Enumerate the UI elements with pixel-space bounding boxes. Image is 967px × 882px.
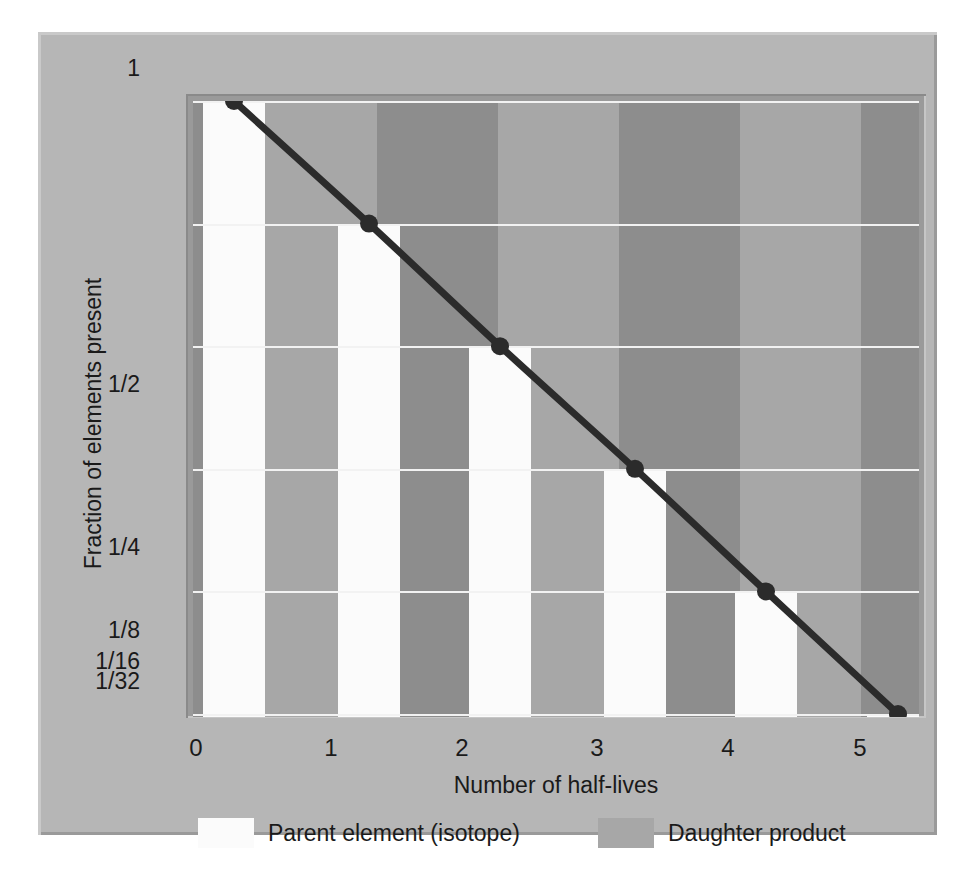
legend-label: Parent element (isotope) [268,820,520,847]
legend-swatch [198,818,254,848]
x-tick-label: 3 [567,734,627,762]
legend-label: Daughter product [668,820,846,847]
x-tick-label: 1 [301,734,361,762]
x-tick-label: 5 [830,734,890,762]
y-tick-label: 1 [44,57,140,80]
data-point [491,337,509,355]
legend-item: Daughter product [598,818,846,848]
y-axis-title: Fraction of elements present [80,214,107,634]
legend-swatch [598,818,654,848]
figure-panel: 11/21/41/81/161/32 Fraction of elements … [38,32,937,835]
legend-item: Parent element (isotope) [198,818,520,848]
data-point [757,582,775,600]
x-tick-label: 0 [166,734,226,762]
x-tick-label: 4 [698,734,758,762]
decay-curve-layer [193,101,919,717]
x-axis-title: Number of half-lives [186,772,926,799]
data-point [360,215,378,233]
x-tick-label: 2 [432,734,492,762]
plot-area [193,101,919,717]
chart-legend: Parent element (isotope)Daughter product [148,818,908,852]
y-tick-label: 1/32 [44,670,140,693]
top-caption-remnant [60,0,760,6]
decay-curve-path [234,101,898,714]
data-point [626,460,644,478]
